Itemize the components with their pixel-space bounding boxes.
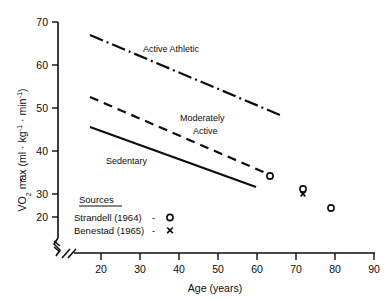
axis-break-icon: [54, 238, 76, 258]
vo2max-age-chart: 70 60 50 40 30 20 VO2 max (ml · kg-1 · m…: [0, 0, 392, 299]
data-point-marker: [267, 173, 273, 179]
y-tick-label-50: 50: [36, 102, 48, 114]
series-label-moderately-active-line1: Moderately: [180, 113, 225, 123]
y-tick-label-60: 60: [36, 59, 48, 71]
legend-entry-dash: -: [152, 212, 155, 223]
x-tick-label-30: 30: [134, 263, 146, 275]
y-axis-title-max: max: [16, 169, 28, 193]
y-axis-title: VO2 max (ml · kg-1 · min-1): [15, 88, 33, 211]
y-axis-group: 70 60 50 40 30 20 VO2 max (ml · kg-1 · m…: [15, 16, 59, 238]
y-axis-title-group: VO2 max (ml · kg-1 · min-1): [15, 88, 33, 211]
y-axis-title-sup1: -1: [15, 125, 24, 132]
x-tick-label-50: 50: [212, 263, 224, 275]
x-tick-label-20: 20: [95, 263, 107, 275]
series-label-active-athletic: Active Athletic: [143, 44, 200, 54]
legend-entry-label: Benestad (1965): [74, 225, 144, 236]
x-axis-group: 20 30 40 50 60 70 80 90 Age (years): [74, 253, 380, 294]
y-axis-title-sup2: -1: [15, 92, 24, 99]
data-point-marker: [328, 205, 334, 211]
x-tick-label-70: 70: [290, 263, 302, 275]
x-tick-label-90: 90: [368, 263, 380, 275]
x-tick-label-40: 40: [173, 263, 185, 275]
v-dot-overbar-icon: [20, 179, 22, 181]
y-tick-label-70: 70: [36, 16, 48, 28]
legend: Sources Strandell (1964) - Benestad (196…: [74, 194, 173, 236]
x-tick-label-80: 80: [329, 263, 341, 275]
series-label-sedentary: Sedentary: [106, 156, 148, 166]
y-axis-title-v: V: [16, 205, 28, 212]
legend-title: Sources: [79, 194, 114, 205]
legend-marker-cross-icon: [167, 228, 173, 234]
data-point-marker: [300, 186, 306, 192]
y-tick-label-30: 30: [36, 188, 48, 200]
series-active-athletic-group: Active Athletic: [90, 35, 280, 115]
y-tick-label-40: 40: [36, 145, 48, 157]
legend-entry-label: Strandell (1964): [74, 212, 142, 223]
y-axis-title-mid: · min: [16, 98, 28, 124]
data-points-group: [267, 173, 334, 211]
y-axis-title-o: O: [16, 196, 28, 204]
legend-entry-strandell: Strandell (1964) -: [74, 212, 173, 223]
legend-entry-benestad: Benestad (1965) -: [74, 225, 173, 236]
chart-plot-area: 70 60 50 40 30 20 VO2 max (ml · kg-1 · m…: [0, 0, 392, 299]
y-tick-label-20: 20: [36, 211, 48, 223]
y-axis-title-close: ): [16, 88, 28, 92]
x-axis-title: Age (years): [188, 282, 242, 294]
series-label-moderately-active-line2: Active: [193, 126, 218, 136]
legend-entry-dash: -: [152, 225, 155, 236]
legend-marker-circle-icon: [167, 214, 173, 220]
y-axis-title-open: (ml · kg: [16, 131, 28, 169]
x-tick-label-60: 60: [251, 263, 263, 275]
